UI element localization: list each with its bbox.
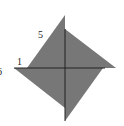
label-5: 5	[38, 30, 43, 40]
triangle-upper-left	[27, 15, 65, 68]
label-1: 1	[17, 57, 22, 67]
label-6: 6	[0, 67, 2, 77]
triangle-upper-right	[65, 29, 116, 68]
triangle-lower-right	[65, 68, 103, 121]
triangle-lower-left	[14, 68, 65, 108]
